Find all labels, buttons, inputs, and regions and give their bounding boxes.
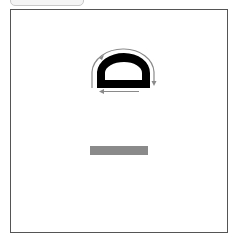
diagram-figure	[0, 0, 234, 238]
gray-bar	[90, 146, 148, 155]
arc-arrowhead-icon	[152, 81, 157, 86]
d-profile-shape	[97, 53, 150, 88]
horizontal-arrowhead-icon	[99, 89, 104, 94]
